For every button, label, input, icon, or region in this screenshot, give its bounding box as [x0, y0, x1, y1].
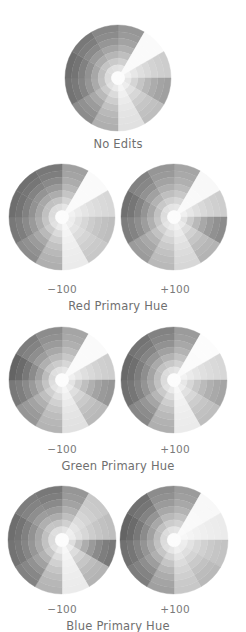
color-wheel-green-primary-hue-minus-100: [8, 326, 116, 434]
value-label-green-minus: −100: [42, 443, 82, 455]
caption-no-edits: No Edits: [78, 138, 158, 150]
value-label-red-minus: −100: [42, 283, 82, 295]
value-label-green-plus: +100: [155, 443, 195, 455]
caption-red-primary-hue: Red Primary Hue: [58, 300, 178, 312]
caption-green-primary-hue: Green Primary Hue: [52, 460, 184, 472]
value-label-blue-minus: −100: [42, 603, 82, 615]
caption-blue-primary-hue: Blue Primary Hue: [58, 620, 178, 632]
color-wheel-blue-primary-hue-minus-100: [7, 485, 117, 595]
color-wheel-red-primary-hue-minus-100: [8, 163, 116, 271]
color-wheel-green-primary-hue-plus-100: [120, 326, 228, 434]
value-label-red-plus: +100: [155, 283, 195, 295]
color-wheel-blue-primary-hue-plus-100: [119, 485, 229, 595]
color-wheel-red-primary-hue-plus-100: [120, 163, 228, 271]
value-label-blue-plus: +100: [155, 603, 195, 615]
color-wheel-no-edits: [64, 24, 172, 132]
